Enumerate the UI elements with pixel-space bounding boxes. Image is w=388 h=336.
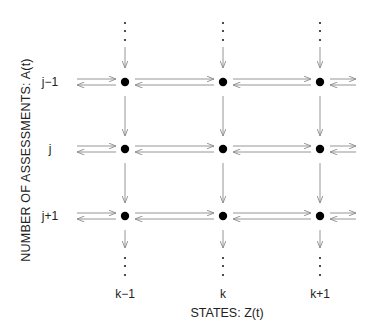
ellipsis-dot [319,39,321,41]
ellipsis-dot [319,265,321,267]
ellipsis-dot [319,274,321,276]
state-node [219,212,227,220]
state-node [316,212,324,220]
row-label: j+1 [42,210,58,222]
state-node [219,78,227,86]
state-node [121,145,129,153]
state-node [316,145,324,153]
ellipsis-dot [124,39,126,41]
state-nodes [121,78,324,220]
column-label: k+1 [310,288,330,300]
ellipsis-dot [124,265,126,267]
ellipsis-dot [319,30,321,32]
state-transition-lattice [0,0,388,336]
ellipsis-dot [222,30,224,32]
x-axis-label: STATES: Z(t) [190,307,263,320]
ellipsis-dot [222,265,224,267]
ellipsis-dot [124,274,126,276]
ellipsis-dot [222,22,224,24]
ellipsis-dot [319,257,321,259]
ellipsis-dot [124,30,126,32]
ellipsis-dot [124,257,126,259]
column-label: k [220,288,226,300]
ellipsis-dot [222,257,224,259]
state-node [316,78,324,86]
ellipsis-dot [222,39,224,41]
state-node [219,145,227,153]
state-node [121,78,129,86]
ellipsis-dot [124,22,126,24]
ellipsis-dot [222,274,224,276]
state-node [121,212,129,220]
row-label: j−1 [42,76,58,88]
ellipsis-dot [319,22,321,24]
column-label: k−1 [115,288,135,300]
y-axis-label: NUMBER OF ASSESSMENTS: A(t) [20,58,33,261]
transition-arrows [77,47,356,248]
row-label: j [49,143,52,155]
